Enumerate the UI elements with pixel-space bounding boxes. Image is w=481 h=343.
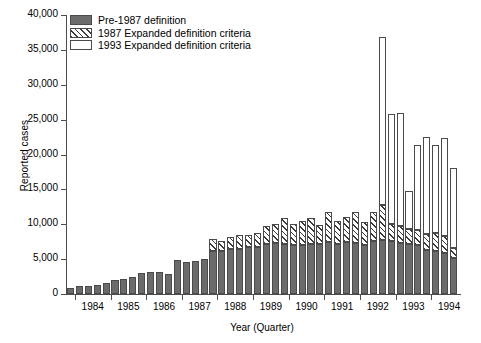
bar-segment <box>316 244 323 294</box>
bar <box>414 15 421 294</box>
x-tick-mark <box>289 294 290 300</box>
bar <box>281 15 288 294</box>
legend-item-1993-expanded: 1993 Expanded definition criteria <box>70 39 251 52</box>
bar-segment <box>290 224 297 245</box>
bar-segment <box>423 250 430 294</box>
bar-segment <box>450 258 457 294</box>
bar-segment <box>441 253 448 294</box>
bar-segment <box>299 221 306 245</box>
bar <box>120 15 127 294</box>
y-tick-label: 35,000 <box>27 43 58 54</box>
bar <box>254 15 261 294</box>
bar-segment <box>236 235 243 248</box>
x-tick-mark <box>75 294 76 300</box>
bar-segment <box>218 241 225 251</box>
y-tick-label: 5,000 <box>33 252 58 263</box>
bar <box>441 15 448 294</box>
bar <box>147 15 154 294</box>
legend-label-1987-expanded: 1987 Expanded definition criteria <box>98 27 251 40</box>
bar-segment <box>405 244 412 294</box>
legend-item-pre-1987: Pre-1987 definition <box>70 14 251 27</box>
bar <box>227 15 234 294</box>
bar <box>76 15 83 294</box>
bar-segment <box>245 235 252 247</box>
bar-segment <box>450 168 457 248</box>
x-tick-label: 1991 <box>322 301 362 312</box>
bar-segment <box>423 137 430 234</box>
bar-segment <box>370 212 377 241</box>
bar <box>174 15 181 294</box>
bar <box>111 15 118 294</box>
chart-legend: Pre-1987 definition 1987 Expanded defini… <box>70 14 251 52</box>
bar-segment <box>441 138 448 236</box>
bar <box>334 15 341 294</box>
bar-segment <box>227 249 234 294</box>
bar-segment <box>94 285 101 294</box>
bar-segment <box>334 244 341 294</box>
bar-segment <box>397 113 404 227</box>
bar-segment <box>325 212 332 242</box>
bar <box>307 15 314 294</box>
x-tick-mark <box>146 294 147 300</box>
bar-segment <box>227 237 234 250</box>
bar-segment <box>334 221 341 243</box>
bar-segment <box>388 224 395 241</box>
bar-segment <box>254 233 261 247</box>
bar-segment <box>165 274 172 294</box>
bar <box>129 15 136 294</box>
legend-item-1987-expanded: 1987 Expanded definition criteria <box>70 27 251 40</box>
bar <box>245 15 252 294</box>
bar-segment <box>263 244 270 294</box>
bar-segment <box>397 226 404 243</box>
x-tick-label: 1989 <box>251 301 291 312</box>
bar-segment <box>85 286 92 294</box>
bar-segment <box>103 283 110 294</box>
bar <box>94 15 101 294</box>
bar-segment <box>414 245 421 294</box>
bar <box>85 15 92 294</box>
y-tick-label: 0 <box>52 287 58 298</box>
bar <box>370 15 377 294</box>
bar-segment <box>388 114 395 224</box>
x-axis-line <box>66 294 461 295</box>
bar-segment <box>379 37 386 204</box>
bar-segment <box>325 242 332 294</box>
chart-figure: Reported cases 05,00010,00015,00020,0002… <box>0 0 481 343</box>
bar <box>103 15 110 294</box>
bar-segment <box>405 229 412 244</box>
x-tick-mark <box>431 294 432 300</box>
bar-segment <box>352 212 359 243</box>
bar-segment <box>111 280 118 294</box>
bar-segment <box>414 145 421 230</box>
bar-segment <box>272 224 279 244</box>
x-tick-label: 1988 <box>215 301 255 312</box>
bar-segment <box>120 279 127 294</box>
x-tick-mark <box>182 294 183 300</box>
y-tick-label: 20,000 <box>27 148 58 159</box>
bar <box>236 15 243 294</box>
bar <box>263 15 270 294</box>
bar-segment <box>183 262 190 294</box>
bar-segment <box>414 230 421 245</box>
bar-segment <box>361 245 368 294</box>
bar-segment <box>76 286 83 294</box>
x-tick-label: 1993 <box>393 301 433 312</box>
x-tick-mark <box>360 294 361 300</box>
bar-segment <box>245 247 252 294</box>
legend-swatch-1987-expanded <box>70 28 92 38</box>
legend-label-1993-expanded: 1993 Expanded definition criteria <box>98 39 251 52</box>
legend-swatch-1993-expanded <box>70 40 92 50</box>
bar-segment <box>441 236 448 253</box>
legend-swatch-pre-1987 <box>70 15 92 25</box>
bar-segment <box>299 245 306 294</box>
bar-segment <box>218 251 225 294</box>
bar-segment <box>307 218 314 244</box>
x-axis-label: Year (Quarter) <box>66 322 458 333</box>
bar <box>316 15 323 294</box>
bar <box>183 15 190 294</box>
bar <box>450 15 457 294</box>
bar-segment <box>307 244 314 294</box>
x-tick-label: 1990 <box>287 301 327 312</box>
bar <box>218 15 225 294</box>
x-tick-mark <box>111 294 112 300</box>
